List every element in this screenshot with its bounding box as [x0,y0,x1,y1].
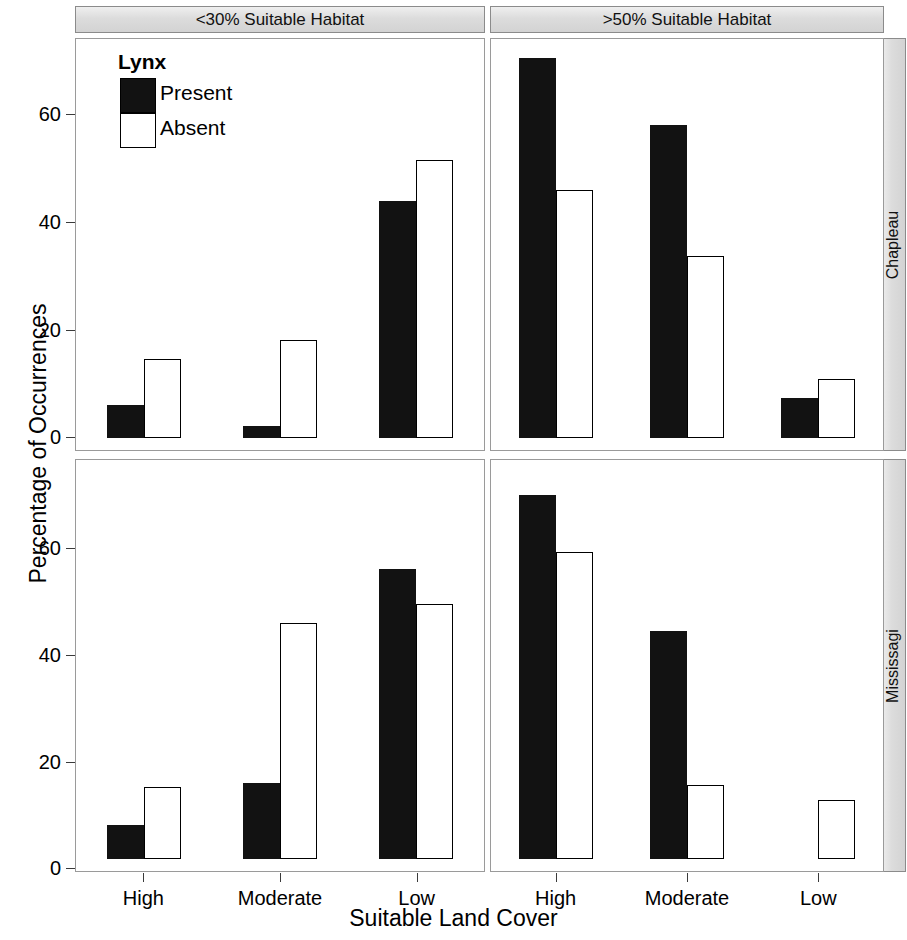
bar-absent-high [556,552,593,859]
figure-root: Percentage of Occurrences Suitable Land … [0,0,907,940]
bar-absent-low [818,379,855,438]
bar-present-moderate [243,783,280,859]
x-tick-label-moderate: Moderate [238,887,323,910]
facet-strip-column-right: >50% Suitable Habitat [490,6,884,33]
bar-absent-high [556,190,593,438]
x-tick-label-moderate: Moderate [645,887,730,910]
y-tick-60-bottom [66,548,75,549]
plot-area [491,460,883,871]
y-tick-40-top [66,222,75,223]
y-axis-bottom: 60 40 20 0 [0,459,75,872]
y-tick-label-0-bottom: 0 [50,857,61,880]
bar-present-moderate [650,125,687,438]
facet-strip-row-bottom-label: Mississagi [884,629,902,703]
x-tick-label-low: Low [398,887,435,910]
panel-mississagi-lt30 [75,459,485,872]
x-tick-low [818,873,819,882]
y-tick-60-top [66,114,75,115]
y-tick-0-bottom [66,868,75,869]
y-tick-40-bottom [66,655,75,656]
x-tick-label-low: Low [800,887,837,910]
y-tick-label-60-top: 60 [39,103,61,126]
plot-area [491,39,883,450]
facet-strip-row-top-label: Chapleau [884,210,902,279]
bar-absent-moderate [280,340,317,438]
bar-absent-high [144,787,181,859]
legend-label-absent: Absent [160,116,225,140]
legend-swatch-absent [120,113,156,148]
y-tick-20-top [66,330,75,331]
x-tick-moderate [280,873,281,882]
y-tick-label-40-top: 40 [39,211,61,234]
x-tick-high [143,873,144,882]
x-tick-label-high: High [123,887,164,910]
y-tick-0-top [66,437,75,438]
x-axis-left: HighModerateLow [75,873,485,913]
panel-chapleau-gt50 [490,38,884,451]
bar-present-moderate [650,631,687,859]
y-tick-20-bottom [66,762,75,763]
y-tick-label-60-bottom: 60 [39,537,61,560]
y-tick-label-40-bottom: 40 [39,644,61,667]
x-tick-high [556,873,557,882]
bar-present-moderate [243,426,280,438]
legend-label-present: Present [160,81,232,105]
bar-present-low [379,201,416,438]
y-tick-label-0-top: 0 [50,426,61,449]
bar-present-high [519,495,556,859]
bar-present-low [781,398,818,438]
y-axis-top: 60 40 20 0 [0,38,75,451]
bar-absent-high [144,359,181,438]
bar-present-high [107,825,144,859]
x-tick-low [417,873,418,882]
x-axis-right: HighModerateLow [490,873,884,913]
bar-absent-moderate [280,623,317,859]
bar-present-low [379,569,416,859]
bar-absent-low [416,160,453,438]
facet-strip-column-left: <30% Suitable Habitat [75,6,485,33]
bar-absent-moderate [687,785,724,859]
x-tick-moderate [687,873,688,882]
panel-mississagi-gt50 [490,459,884,872]
bar-present-high [107,405,144,438]
bar-absent-low [416,604,453,859]
x-tick-label-high: High [535,887,576,910]
legend-title: Lynx [118,50,166,74]
legend-swatch-present [120,78,156,113]
y-tick-label-20-bottom: 20 [39,751,61,774]
y-tick-label-20-top: 20 [39,319,61,342]
bar-present-high [519,58,556,438]
bar-absent-low [818,800,855,859]
bar-absent-moderate [687,256,724,438]
plot-area [76,460,484,871]
legend: Lynx Present Absent [118,50,338,160]
